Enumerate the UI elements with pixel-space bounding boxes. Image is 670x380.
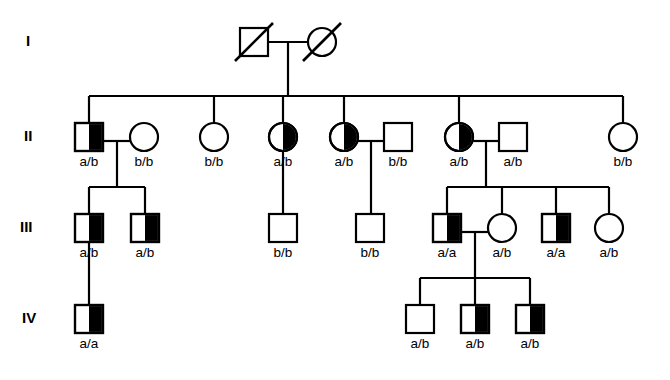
individual-I-1[interactable] xyxy=(235,23,273,61)
symbol-square-IV-2 xyxy=(406,305,434,333)
symbol-square-II-6 xyxy=(384,123,412,151)
generation-label-II: II xyxy=(24,127,32,144)
generation-label-I: I xyxy=(26,32,30,49)
symbol-half-shading-II-1 xyxy=(89,124,102,150)
genotype-label-II-7: a/b xyxy=(450,154,469,169)
pedigree-canvas: a/bb/bb/ba/ba/bb/ba/ba/bb/ba/ba/bb/bb/ba… xyxy=(0,0,670,380)
generation-label-IV: IV xyxy=(22,309,36,326)
symbol-half-shading-III-2 xyxy=(145,215,158,241)
symbol-half-shading-IV-3 xyxy=(475,306,488,332)
genotype-label-II-4: a/b xyxy=(274,154,293,169)
genotype-label-III-7: a/a xyxy=(547,245,566,260)
genotype-label-IV-1: a/a xyxy=(80,336,99,351)
symbol-circle-III-8 xyxy=(595,214,623,242)
genotype-label-II-5: a/b xyxy=(335,154,354,169)
symbol-circle-II-2 xyxy=(130,123,158,151)
genotype-label-IV-2: a/b xyxy=(411,336,430,351)
genotype-label-II-6: b/b xyxy=(389,154,408,169)
symbol-half-shading-IV-4 xyxy=(530,306,543,332)
symbol-half-shading-III-5 xyxy=(447,215,460,241)
symbol-half-shading-III-7 xyxy=(556,215,569,241)
genotype-label-III-6: a/b xyxy=(493,245,512,260)
generation-label-III: III xyxy=(20,218,33,235)
genotype-label-IV-3: a/b xyxy=(466,336,485,351)
genotype-label-II-9: b/b xyxy=(614,154,633,169)
symbol-circle-II-3 xyxy=(200,123,228,151)
symbol-half-shading-IV-1 xyxy=(89,306,102,332)
symbol-square-II-8 xyxy=(499,123,527,151)
symbol-circle-II-9 xyxy=(609,123,637,151)
genotype-label-III-1: a/b xyxy=(80,245,99,260)
genotype-label-II-2: b/b xyxy=(135,154,154,169)
symbol-square-III-4 xyxy=(356,214,384,242)
genotype-label-III-2: a/b xyxy=(136,245,155,260)
genotype-label-III-5: a/a xyxy=(438,245,457,260)
genotype-label-III-8: a/b xyxy=(600,245,619,260)
genotype-label-IV-4: a/b xyxy=(521,336,540,351)
genotype-label-III-3: b/b xyxy=(274,245,293,260)
genotype-label-III-4: b/b xyxy=(361,245,380,260)
pedigree-chart: a/bb/bb/ba/ba/bb/ba/ba/bb/ba/ba/bb/bb/ba… xyxy=(0,0,670,380)
symbol-circle-III-6 xyxy=(488,214,516,242)
symbol-square-III-3 xyxy=(269,214,297,242)
genotype-label-II-8: a/b xyxy=(504,154,523,169)
genotype-label-II-3: b/b xyxy=(205,154,224,169)
genotype-label-II-1: a/b xyxy=(80,154,99,169)
symbol-half-shading-III-1 xyxy=(89,215,102,241)
